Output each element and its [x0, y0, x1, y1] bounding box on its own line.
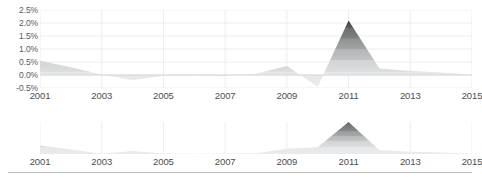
x-tick-label: 2009 — [276, 156, 297, 167]
y-tick-label: 0.5% — [19, 58, 38, 67]
area-series-sub — [40, 122, 472, 154]
x-tick-label: 2003 — [91, 156, 112, 167]
y-tick-label: 1.5% — [19, 32, 38, 41]
x-tick-label: 2005 — [153, 90, 174, 101]
x-axis-sub: 20012003200520072009201120132015 — [40, 154, 472, 170]
plot-area-main — [40, 10, 472, 88]
x-tick-label: 2003 — [91, 90, 112, 101]
y-tick-label: 1.0% — [19, 45, 38, 54]
x-tick-label: 2007 — [215, 156, 236, 167]
x-tick-label: 2007 — [215, 90, 236, 101]
x-tick-label: 2005 — [153, 156, 174, 167]
x-tick-label: 2009 — [276, 90, 297, 101]
y-tick-label: 0.0% — [19, 71, 38, 80]
x-tick-label: 2011 — [339, 90, 359, 101]
y-tick-label: 2.0% — [19, 19, 38, 28]
x-tick-label: 2001 — [30, 156, 51, 167]
x-tick-label: 2015 — [462, 90, 482, 101]
x-tick-label: 2013 — [400, 156, 421, 167]
x-tick-label: 2015 — [462, 156, 482, 167]
y-tick-label: 2.5% — [19, 6, 38, 15]
y-axis-main: 2.5%2.0%1.5%1.0%0.5%0.0%-0.5% — [0, 10, 38, 88]
main-chart-panel: 2.5%2.0%1.5%1.0%0.5%0.0%-0.5% — [0, 0, 480, 108]
x-axis-main: 20012003200520072009201120132015 — [40, 88, 472, 104]
x-tick-label: 2013 — [400, 90, 421, 101]
plot-area-sub — [40, 122, 472, 154]
area-series-main — [40, 10, 472, 88]
x-tick-label: 2011 — [339, 156, 359, 167]
footer-divider — [8, 172, 472, 173]
sub-chart-panel: 20012003200520072009201120132015 — [0, 108, 480, 166]
x-tick-label: 2001 — [30, 90, 51, 101]
